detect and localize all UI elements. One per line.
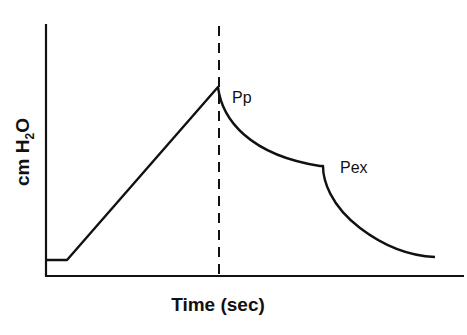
expiratory-pressure-label: Pex: [340, 159, 368, 176]
y-axis-label: cm H2O: [12, 118, 37, 186]
x-axis-label: Time (sec): [171, 294, 265, 315]
peak-pressure-label: Pp: [232, 89, 252, 106]
pressure-time-chart: Pp Pex Time (sec) cm H2O: [0, 0, 467, 335]
pressure-curve: [47, 87, 435, 260]
